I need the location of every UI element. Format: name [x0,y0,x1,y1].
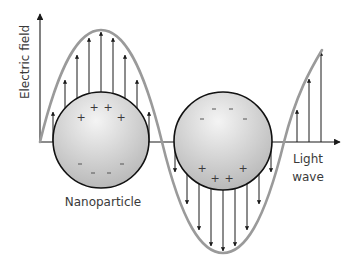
nanoparticle-label: Nanoparticle [65,195,142,209]
svg-text:+: + [89,101,98,114]
nanoparticle-light-wave-diagram: + + + + + + + + Electric field Nanoparti [0,0,351,268]
electric-field-label: Electric field [18,25,32,99]
field-arrows-right [297,52,321,142]
svg-text:+: + [197,162,206,175]
light-wave-label-line1: Light [293,152,323,166]
svg-text:+: + [103,101,112,114]
svg-text:+: + [76,111,85,124]
light-wave-label-line2: wave [292,170,324,184]
svg-text:+: + [210,172,219,185]
svg-text:+: + [224,172,233,185]
svg-text:+: + [116,111,125,124]
svg-text:+: + [238,162,247,175]
right-nanoparticle: + + + + [174,92,272,190]
left-nanoparticle: + + + + [53,92,149,188]
